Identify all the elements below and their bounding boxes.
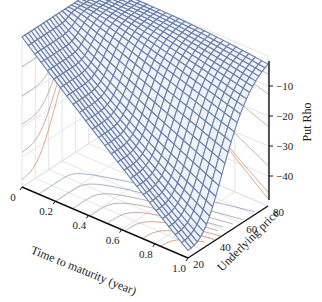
x-tick-label: 0.4 — [73, 219, 87, 231]
x-tick-mark — [53, 201, 55, 204]
x-tick-mark — [186, 258, 188, 261]
put-rho-surface-chart: 00.20.40.60.81.020406080−10−20−30−40 Tim… — [0, 0, 322, 302]
x-axis-label: Time to maturity (year) — [29, 243, 139, 298]
x-tick-label: 0.6 — [106, 234, 120, 246]
z-tick-label: −20 — [276, 110, 294, 122]
z-tick-label: −30 — [276, 140, 294, 152]
x-tick-label: 0.2 — [39, 205, 53, 217]
x-tick-mark — [153, 244, 155, 247]
x-tick-mark — [120, 230, 122, 233]
z-tick-label: −40 — [276, 170, 294, 182]
x-tick-label: 0.8 — [139, 248, 153, 260]
z-axis-label: Put Rho — [300, 102, 314, 141]
x-tick-label: 1.0 — [172, 262, 186, 274]
x-tick-mark — [20, 187, 22, 190]
x-tick-label: 0 — [10, 191, 16, 203]
y-tick-label: 20 — [193, 258, 205, 270]
z-tick-label: −10 — [276, 80, 294, 92]
x-tick-mark — [86, 215, 88, 218]
